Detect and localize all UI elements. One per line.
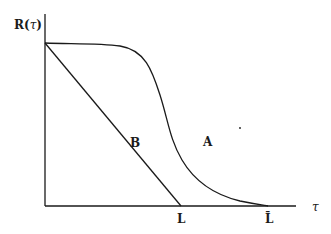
curve-a [45,43,268,206]
curve-a-label: A [203,135,212,149]
diagram-canvas [0,0,331,234]
curve-b [45,43,181,206]
tick-label-l: L [177,212,185,226]
y-axis-label: R(τ) [14,18,42,32]
tick-label-lbar: L̄ [265,212,273,226]
speck [239,127,241,129]
x-axis-label: τ [312,200,319,214]
curve-b-label: B [130,136,140,150]
